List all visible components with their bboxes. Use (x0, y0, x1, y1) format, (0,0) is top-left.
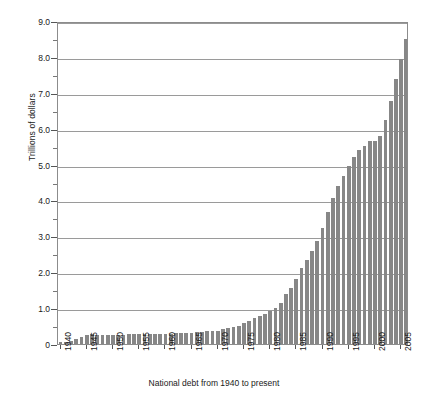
x-tick (217, 345, 218, 349)
x-tick (374, 345, 375, 349)
bar (284, 294, 288, 344)
y-tick-label: 6.0 (6, 126, 50, 135)
gridline (58, 131, 407, 132)
y-tick-label: 1.0 (6, 305, 50, 314)
bar (237, 326, 241, 344)
x-tick-label: 1985 (299, 332, 308, 351)
bar (394, 79, 398, 344)
x-tick-label: 1990 (326, 332, 335, 351)
bar (321, 228, 325, 344)
gridline (58, 95, 407, 96)
y-tick-label: 0 (6, 341, 50, 350)
bar (336, 186, 340, 344)
gridline (58, 23, 407, 24)
bar (80, 337, 84, 344)
bar (190, 333, 194, 344)
bar (258, 316, 262, 344)
x-tick (269, 345, 270, 349)
x-tick (400, 345, 401, 349)
x-tick (348, 345, 349, 349)
bar (205, 331, 209, 344)
x-tick (191, 345, 192, 349)
bar (211, 331, 215, 344)
bar (352, 157, 356, 344)
bar (384, 120, 388, 344)
bar (106, 335, 110, 344)
x-tick (243, 345, 244, 349)
x-tick-label: 1975 (247, 332, 256, 351)
y-tick-label: 4.0 (6, 197, 50, 206)
bar (184, 333, 188, 344)
national-debt-bar-chart: Trillions of dollars 01.02.03.04.05.06.0… (0, 0, 428, 397)
bar (399, 59, 403, 344)
y-tick-label: 7.0 (6, 90, 50, 99)
y-tick-label: 8.0 (6, 54, 50, 63)
bar (315, 241, 319, 344)
x-tick-label: 2005 (404, 332, 413, 351)
x-tick-label: 1980 (273, 332, 282, 351)
bar (404, 39, 408, 344)
bar (74, 339, 78, 344)
x-tick (164, 345, 165, 349)
bar (363, 146, 367, 344)
bar (389, 101, 393, 344)
x-tick-label: 1970 (221, 332, 230, 351)
bar (153, 334, 157, 344)
x-tick (322, 345, 323, 349)
bar (368, 141, 372, 344)
x-tick (60, 345, 61, 349)
bar (263, 314, 267, 344)
y-tick-label: 3.0 (6, 233, 50, 242)
y-tick-label: 2.0 (6, 269, 50, 278)
bar (232, 327, 236, 344)
x-tick-label: 1950 (116, 332, 125, 351)
x-axis-title: National debt from 1940 to present (0, 378, 428, 388)
bar (127, 334, 131, 344)
x-tick-label: 1945 (90, 332, 99, 351)
x-tick (138, 345, 139, 349)
x-tick-label: 1995 (352, 332, 361, 351)
x-tick (86, 345, 87, 349)
x-tick-label: 1955 (142, 332, 151, 351)
x-tick-label: 2000 (378, 332, 387, 351)
plot-area (57, 22, 408, 345)
bar (378, 136, 382, 345)
bar (373, 141, 377, 344)
x-tick-label: 1960 (168, 332, 177, 351)
bar (310, 251, 314, 344)
bar (101, 335, 105, 344)
bar (331, 198, 335, 344)
x-tick (112, 345, 113, 349)
bar (342, 176, 346, 344)
bar (326, 212, 330, 344)
bar (59, 342, 63, 344)
gridline (58, 59, 407, 60)
bar (179, 333, 183, 344)
bar (158, 334, 162, 344)
bar (357, 150, 361, 344)
bar (347, 166, 351, 344)
bar (132, 334, 136, 344)
x-tick-label: 1940 (64, 332, 73, 351)
y-tick-major (51, 345, 57, 346)
x-tick-label: 1965 (195, 332, 204, 351)
bar (289, 288, 293, 344)
y-tick-label: 5.0 (6, 162, 50, 171)
y-tick-label: 9.0 (6, 18, 50, 27)
x-tick (295, 345, 296, 349)
